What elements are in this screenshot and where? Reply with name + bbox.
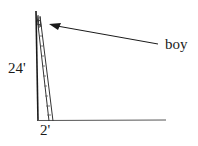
base-label: 2' <box>40 123 50 138</box>
pointer-arrow <box>49 23 158 44</box>
ladder-diagram <box>0 0 198 146</box>
height-label: 24' <box>8 61 26 76</box>
ladder <box>37 16 53 121</box>
ground-line <box>38 120 166 121</box>
boy-label: boy <box>165 37 188 52</box>
wall-line <box>36 11 38 121</box>
